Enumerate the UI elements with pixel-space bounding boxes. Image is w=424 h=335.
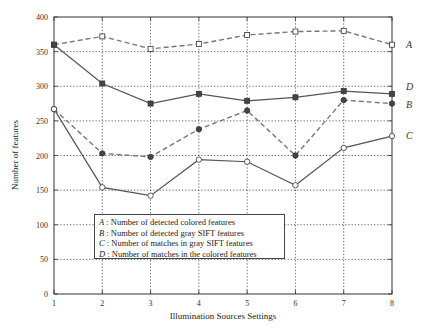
series-end-labels: ABCD bbox=[405, 39, 414, 141]
data-point bbox=[245, 33, 250, 38]
data-point bbox=[341, 97, 346, 102]
y-tick-label: 50 bbox=[40, 255, 48, 264]
data-point bbox=[148, 101, 153, 106]
x-tick-label: 4 bbox=[197, 299, 201, 308]
y-tick-label: 150 bbox=[36, 186, 48, 195]
data-point bbox=[196, 42, 201, 47]
series-label-a: A bbox=[405, 39, 413, 50]
series-label-d: D bbox=[405, 81, 414, 92]
legend: A : Number of detected colored features … bbox=[94, 214, 285, 259]
data-point bbox=[148, 46, 153, 51]
data-point bbox=[148, 193, 153, 198]
data-point bbox=[52, 42, 57, 47]
data-point bbox=[51, 106, 56, 111]
data-point bbox=[196, 126, 201, 131]
data-point bbox=[293, 29, 298, 34]
x-tick-label: 5 bbox=[245, 299, 249, 308]
data-point bbox=[341, 145, 346, 150]
legend-item-c: C : Number of matches in gray SIFT featu… bbox=[99, 238, 280, 249]
data-point bbox=[293, 183, 298, 188]
legend-item-b: B : Number of detected gray SIFT feature… bbox=[99, 228, 280, 239]
series-label-c: C bbox=[406, 130, 413, 141]
series-a bbox=[52, 28, 395, 51]
x-tick-label: 8 bbox=[390, 299, 394, 308]
data-point bbox=[293, 153, 298, 158]
data-point bbox=[148, 154, 153, 159]
data-series bbox=[51, 28, 394, 198]
x-tick-label: 1 bbox=[52, 299, 56, 308]
data-point bbox=[100, 34, 105, 39]
data-point bbox=[244, 108, 249, 113]
line-chart: 050100150200250300350400 12345678 ABCD N… bbox=[0, 0, 424, 335]
y-tick-label: 0 bbox=[44, 290, 48, 299]
data-point bbox=[100, 81, 105, 86]
data-point bbox=[390, 91, 395, 96]
y-axis-title: Number of features bbox=[10, 120, 20, 190]
series-label-b: B bbox=[406, 99, 412, 110]
data-point bbox=[341, 89, 346, 94]
y-tick-label: 300 bbox=[36, 82, 48, 91]
y-tick-label: 250 bbox=[36, 117, 48, 126]
y-tick-label: 400 bbox=[36, 13, 48, 22]
y-tick-label: 350 bbox=[36, 48, 48, 57]
data-point bbox=[100, 185, 105, 190]
x-tick-label: 7 bbox=[342, 299, 346, 308]
data-point bbox=[100, 151, 105, 156]
data-point bbox=[389, 133, 394, 138]
legend-item-a: A : Number of detected colored features bbox=[99, 217, 280, 228]
data-point bbox=[293, 95, 298, 100]
data-point bbox=[341, 28, 346, 33]
legend-item-d: D : Number of matches in the colored fea… bbox=[99, 249, 280, 260]
x-axis-title: Illumination Sources Settings bbox=[170, 311, 277, 321]
data-point bbox=[244, 159, 249, 164]
x-tick-label: 2 bbox=[100, 299, 104, 308]
data-point bbox=[196, 157, 201, 162]
x-axis-ticks: 12345678 bbox=[52, 17, 394, 308]
data-point bbox=[245, 98, 250, 103]
x-tick-label: 6 bbox=[293, 299, 297, 308]
y-tick-label: 100 bbox=[36, 221, 48, 230]
data-point bbox=[390, 42, 395, 47]
data-point bbox=[196, 91, 201, 96]
y-tick-label: 200 bbox=[36, 152, 48, 161]
x-tick-label: 3 bbox=[149, 299, 153, 308]
data-point bbox=[389, 101, 394, 106]
